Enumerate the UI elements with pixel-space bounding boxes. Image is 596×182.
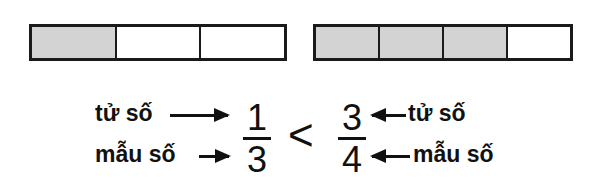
fraction-three-quarters: 3 4 <box>338 100 366 178</box>
bar-cell-shaded <box>442 27 506 58</box>
numerator: 3 <box>338 100 366 136</box>
bar-cell-shaded <box>378 27 442 58</box>
arrow-right-icon <box>199 155 229 158</box>
fraction-bar-one-third <box>29 24 287 61</box>
numerator: 1 <box>243 100 271 136</box>
bar-cell-empty <box>506 27 570 58</box>
arrow-left-icon <box>372 155 410 158</box>
arrow-right-icon <box>170 114 228 117</box>
arrow-left-icon <box>372 114 406 117</box>
right-denominator-label: mẫu số <box>413 143 494 166</box>
denominator: 3 <box>243 142 271 178</box>
fraction-bar-three-quarters <box>313 24 573 61</box>
bar-cell-empty <box>115 27 200 58</box>
bar-cell-shaded <box>32 27 115 58</box>
right-numerator-label: tử số <box>408 102 466 125</box>
denominator: 4 <box>338 142 366 178</box>
bar-cell-shaded <box>316 27 378 58</box>
left-denominator-label: mẫu số <box>95 143 176 166</box>
less-than-sign: < <box>288 113 314 157</box>
fraction-one-third: 1 3 <box>243 100 271 178</box>
bar-cell-empty <box>199 27 284 58</box>
left-numerator-label: tử số <box>95 102 153 125</box>
